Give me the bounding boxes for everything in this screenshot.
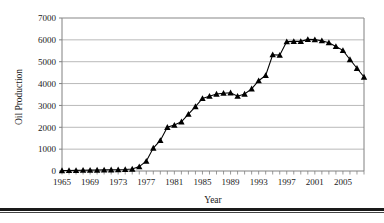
y-tick-label: 2000 xyxy=(38,123,57,133)
y-tick-label: 0 xyxy=(52,166,57,176)
y-tick-label: 1000 xyxy=(38,144,57,154)
x-tick-label: 1973 xyxy=(109,177,128,187)
x-tick-label: 1969 xyxy=(81,177,100,187)
y-tick-label: 6000 xyxy=(38,35,57,45)
x-tick-label: 1977 xyxy=(137,177,156,187)
x-tick-label: 1981 xyxy=(165,177,183,187)
x-axis-label: Year xyxy=(204,195,222,205)
y-axis-label: Oil Production xyxy=(14,69,24,125)
y-tick-label: 5000 xyxy=(38,57,57,67)
x-tick-label: 1997 xyxy=(278,177,297,187)
x-tick-label: 1965 xyxy=(53,177,72,187)
y-tick-label: 3000 xyxy=(38,101,57,111)
x-tick-label: 2001 xyxy=(306,177,324,187)
x-tick-label: 1985 xyxy=(193,177,212,187)
x-tick-label: 1993 xyxy=(250,177,269,187)
chart-background xyxy=(0,0,384,223)
footer-rule-thin xyxy=(0,212,384,213)
x-tick-label: 1989 xyxy=(222,177,241,187)
y-tick-label: 7000 xyxy=(38,13,57,23)
y-tick-label: 4000 xyxy=(38,79,57,89)
chart-figure: 01000200030004000500060007000 1965196919… xyxy=(0,0,384,223)
oil-production-line-chart: 01000200030004000500060007000 1965196919… xyxy=(0,0,384,223)
footer-rule-thick xyxy=(0,208,384,211)
x-tick-labels: 1965196919731977198119851989199319972001… xyxy=(53,177,352,187)
x-tick-label: 2005 xyxy=(334,177,353,187)
